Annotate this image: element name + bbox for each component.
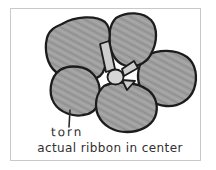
caption-text: actual ribbon in center	[14, 141, 206, 155]
petal-bottom-left	[51, 67, 100, 116]
torn-label: torn	[51, 125, 84, 140]
ribbon-center-knot	[108, 70, 124, 85]
sketch-canvas: torn actual ribbon in center	[0, 0, 216, 170]
petal-top	[109, 13, 156, 66]
